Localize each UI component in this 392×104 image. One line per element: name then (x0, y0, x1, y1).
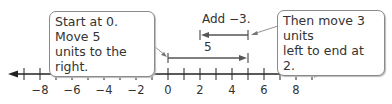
callout-start: Start at 0. Move 5 units to the right. (49, 11, 155, 77)
callout-then-line2: left to end at 2. (283, 43, 379, 73)
tick-label: 0 (164, 83, 171, 97)
tick-label: 8 (292, 83, 299, 97)
tick-label: −6 (64, 83, 81, 97)
tick-label: 6 (260, 83, 267, 97)
tick-label: 4 (228, 83, 235, 97)
movement-arrows (154, 26, 278, 63)
number-line-diagram: −8−6−4−202468 Start at 0. Move 5 units t… (0, 0, 392, 104)
five-label: 5 (204, 40, 212, 54)
tick-label: 2 (196, 83, 203, 97)
callout-start-line1: Start at 0. Move 5 (55, 14, 149, 44)
callout-then-line1: Then move 3 units (283, 13, 379, 43)
callout-start-line2: units to the right. (55, 44, 149, 74)
callout-then: Then move 3 units left to end at 2. (277, 10, 385, 76)
tick-label: −2 (128, 83, 145, 97)
tick-label: −4 (96, 83, 113, 97)
tick-label: −8 (32, 83, 49, 97)
add-label: Add −3. (202, 12, 251, 26)
